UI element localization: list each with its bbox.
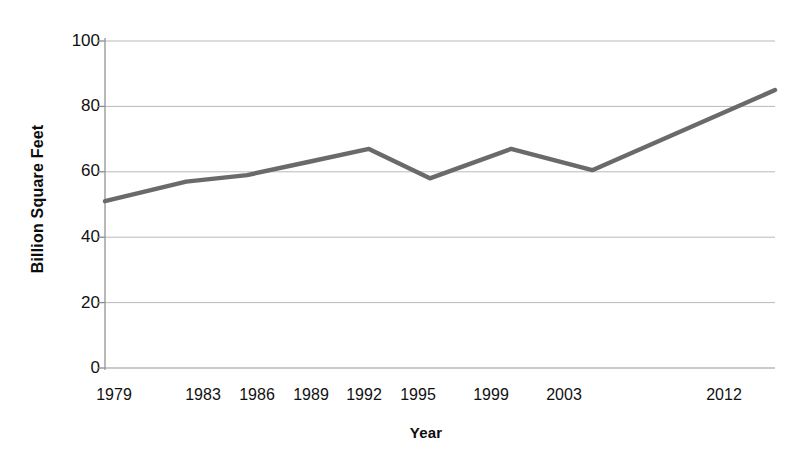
gridline-group — [105, 41, 775, 368]
line-chart-figure: Billion Square Feet Year 100 80 60 40 20… — [0, 0, 802, 474]
axis-tick-group — [98, 41, 105, 368]
plot-area — [0, 0, 802, 474]
